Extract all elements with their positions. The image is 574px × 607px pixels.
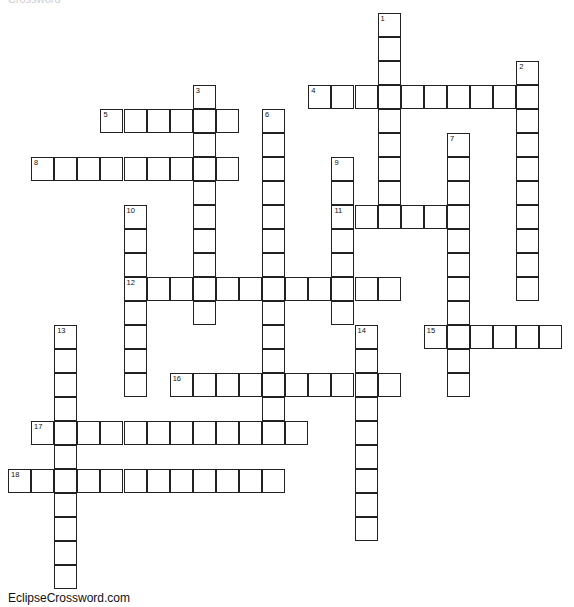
crossword-cell[interactable] xyxy=(447,325,470,349)
crossword-cell[interactable] xyxy=(516,229,539,253)
crossword-cell[interactable] xyxy=(193,181,216,205)
crossword-cell[interactable] xyxy=(493,325,516,349)
crossword-cell[interactable] xyxy=(331,301,354,325)
crossword-cell[interactable] xyxy=(54,397,77,421)
crossword-cell[interactable] xyxy=(262,421,285,445)
crossword-cell[interactable] xyxy=(216,157,239,181)
crossword-cell[interactable] xyxy=(470,85,493,109)
crossword-cell[interactable] xyxy=(378,277,401,301)
crossword-cell[interactable] xyxy=(331,181,354,205)
crossword-cell[interactable] xyxy=(54,541,77,565)
crossword-cell[interactable] xyxy=(193,157,216,181)
crossword-cell[interactable] xyxy=(378,85,401,109)
crossword-cell[interactable]: 15 xyxy=(424,325,447,349)
crossword-cell[interactable] xyxy=(124,253,147,277)
crossword-cell[interactable] xyxy=(147,421,170,445)
crossword-cell[interactable] xyxy=(355,85,378,109)
crossword-cell[interactable] xyxy=(193,277,216,301)
crossword-cell[interactable]: 12 xyxy=(124,277,147,301)
crossword-cell[interactable] xyxy=(516,133,539,157)
crossword-cell[interactable]: 11 xyxy=(331,205,354,229)
crossword-cell[interactable] xyxy=(447,277,470,301)
crossword-cell[interactable] xyxy=(216,421,239,445)
crossword-cell[interactable] xyxy=(378,37,401,61)
crossword-cell[interactable] xyxy=(355,205,378,229)
crossword-cell[interactable] xyxy=(285,421,308,445)
crossword-cell[interactable]: 4 xyxy=(308,85,331,109)
crossword-cell[interactable] xyxy=(355,445,378,469)
crossword-cell[interactable] xyxy=(355,349,378,373)
crossword-cell[interactable] xyxy=(262,325,285,349)
crossword-cell[interactable] xyxy=(147,157,170,181)
crossword-cell[interactable] xyxy=(447,157,470,181)
crossword-cell[interactable] xyxy=(262,397,285,421)
crossword-cell[interactable] xyxy=(447,301,470,325)
crossword-cell[interactable]: 10 xyxy=(124,205,147,229)
crossword-cell[interactable]: 2 xyxy=(516,61,539,85)
crossword-cell[interactable] xyxy=(170,109,193,133)
crossword-cell[interactable] xyxy=(378,133,401,157)
crossword-cell[interactable] xyxy=(539,325,562,349)
crossword-cell[interactable] xyxy=(378,157,401,181)
crossword-cell[interactable] xyxy=(147,469,170,493)
crossword-cell[interactable] xyxy=(447,349,470,373)
crossword-cell[interactable] xyxy=(193,133,216,157)
crossword-cell[interactable]: 17 xyxy=(31,421,54,445)
crossword-cell[interactable] xyxy=(355,373,378,397)
crossword-cell[interactable] xyxy=(355,469,378,493)
crossword-cell[interactable] xyxy=(239,421,262,445)
crossword-cell[interactable] xyxy=(447,373,470,397)
crossword-cell[interactable] xyxy=(262,205,285,229)
crossword-cell[interactable] xyxy=(262,277,285,301)
crossword-cell[interactable] xyxy=(54,421,77,445)
crossword-cell[interactable] xyxy=(193,229,216,253)
crossword-cell[interactable] xyxy=(262,373,285,397)
crossword-cell[interactable] xyxy=(216,469,239,493)
crossword-cell[interactable] xyxy=(31,469,54,493)
crossword-cell[interactable] xyxy=(77,421,100,445)
crossword-cell[interactable] xyxy=(100,469,123,493)
crossword-cell[interactable] xyxy=(262,157,285,181)
crossword-cell[interactable] xyxy=(493,85,516,109)
crossword-cell[interactable] xyxy=(239,469,262,493)
crossword-cell[interactable] xyxy=(193,421,216,445)
crossword-cell[interactable]: 8 xyxy=(31,157,54,181)
crossword-cell[interactable] xyxy=(54,157,77,181)
crossword-cell[interactable] xyxy=(262,133,285,157)
crossword-cell[interactable] xyxy=(124,157,147,181)
crossword-cell[interactable] xyxy=(239,277,262,301)
crossword-cell[interactable] xyxy=(54,469,77,493)
crossword-cell[interactable] xyxy=(378,205,401,229)
crossword-cell[interactable] xyxy=(147,277,170,301)
crossword-cell[interactable] xyxy=(401,85,424,109)
crossword-cell[interactable] xyxy=(54,517,77,541)
crossword-cell[interactable] xyxy=(193,253,216,277)
crossword-cell[interactable] xyxy=(216,373,239,397)
crossword-cell[interactable] xyxy=(193,109,216,133)
crossword-cell[interactable] xyxy=(124,325,147,349)
crossword-cell[interactable]: 14 xyxy=(355,325,378,349)
crossword-cell[interactable] xyxy=(355,493,378,517)
crossword-cell[interactable] xyxy=(331,253,354,277)
crossword-cell[interactable] xyxy=(262,349,285,373)
crossword-cell[interactable]: 5 xyxy=(100,109,123,133)
crossword-cell[interactable] xyxy=(100,421,123,445)
crossword-cell[interactable] xyxy=(54,493,77,517)
crossword-cell[interactable] xyxy=(447,181,470,205)
crossword-cell[interactable] xyxy=(124,421,147,445)
crossword-cell[interactable] xyxy=(308,373,331,397)
crossword-cell[interactable] xyxy=(447,229,470,253)
crossword-cell[interactable] xyxy=(470,325,493,349)
crossword-cell[interactable] xyxy=(216,277,239,301)
crossword-cell[interactable] xyxy=(54,373,77,397)
crossword-cell[interactable] xyxy=(77,157,100,181)
crossword-cell[interactable] xyxy=(170,469,193,493)
crossword-cell[interactable] xyxy=(193,373,216,397)
crossword-cell[interactable] xyxy=(331,229,354,253)
crossword-cell[interactable]: 7 xyxy=(447,133,470,157)
crossword-cell[interactable]: 18 xyxy=(8,469,31,493)
crossword-cell[interactable] xyxy=(516,85,539,109)
crossword-cell[interactable] xyxy=(401,205,424,229)
crossword-cell[interactable] xyxy=(77,469,100,493)
crossword-cell[interactable] xyxy=(262,301,285,325)
